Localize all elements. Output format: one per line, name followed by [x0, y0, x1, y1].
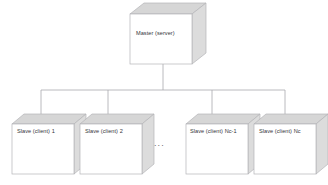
master-node-front-face	[130, 14, 192, 64]
slave-node-nc[interactable]	[254, 114, 328, 174]
slave-node-2-label: Slave (client) 2	[85, 129, 123, 135]
master-node-side-face	[192, 3, 206, 64]
slave-node-2[interactable]	[80, 114, 154, 174]
architecture-diagram	[0, 0, 328, 185]
slave-node-nc-minus-1-label: Slave (client) Nc-1	[190, 129, 237, 135]
slave-node-nc-minus-1-top-face	[186, 114, 260, 124]
slave-node-nc-label: Slave (client) Nc	[259, 129, 301, 135]
slave-node-nc-minus-1[interactable]	[186, 114, 260, 174]
slave-node-2-side-face	[142, 114, 154, 174]
slave-node-nc-side-face	[316, 114, 328, 174]
omitted-nodes-ellipsis: ...	[154, 139, 165, 148]
diagram-canvas: Master (server) Slave (client) 1 Slave (…	[0, 0, 328, 185]
master-node-label: Master (server)	[136, 31, 175, 37]
slave-node-1[interactable]	[12, 114, 86, 174]
slave-node-nc-top-face	[254, 114, 328, 124]
slave-node-1-label: Slave (client) 1	[17, 129, 55, 135]
slave-node-1-top-face	[12, 114, 86, 124]
slave-node-2-top-face	[80, 114, 154, 124]
